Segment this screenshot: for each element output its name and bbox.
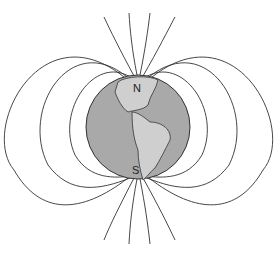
magnetic-field-diagram: N S	[0, 0, 277, 254]
diagram-canvas: N S	[0, 0, 277, 254]
south-pole-label: S	[132, 164, 139, 176]
north-pole-label: N	[133, 82, 141, 94]
